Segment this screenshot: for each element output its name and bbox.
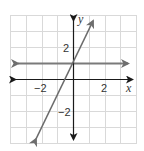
- y-axis-label: y: [77, 12, 84, 26]
- y-tick-2: 2: [63, 42, 69, 54]
- x-tick-neg2: −2: [34, 82, 47, 94]
- y-tick-neg2: −2: [58, 106, 71, 118]
- x-tick-2: 2: [101, 82, 107, 94]
- coordinate-graph: y x −2 2 2 −2: [0, 0, 144, 151]
- x-axis-label: x: [125, 81, 132, 95]
